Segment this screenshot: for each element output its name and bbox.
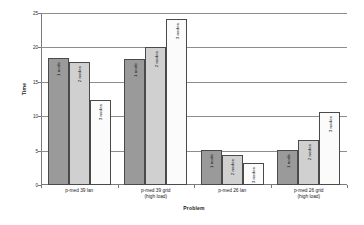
bar-label: 2 nodes: [153, 51, 158, 67]
bar-chart: Time 0510152025 1 node2 nodes3 nodes1 no…: [0, 0, 364, 225]
x-axis-category-label: p-med 26 grid(high load): [271, 188, 348, 201]
bar-label: 3 nodes: [327, 116, 332, 132]
x-axis-category-label: p-med 39 lan: [41, 188, 118, 201]
bar-group: 1 node2 nodes3 nodes: [271, 13, 348, 185]
bar: 3 nodes: [243, 163, 264, 185]
bar: 1 node: [48, 58, 69, 185]
bar-label: 1 node: [56, 62, 61, 76]
y-axis-tick-label: 20: [33, 45, 38, 50]
y-axis-tick-label: 10: [33, 114, 38, 119]
y-axis-tick-label: 5: [35, 148, 38, 153]
bar-groups: 1 node2 nodes3 nodes1 node2 nodes3 nodes…: [41, 13, 347, 185]
category-label-line1: p-med 26 lan: [218, 188, 246, 193]
bar: 1 node: [201, 150, 222, 185]
bar: 2 nodes: [69, 62, 90, 185]
y-axis-tick-label: 0: [35, 183, 38, 188]
x-axis-title: Problem: [41, 205, 347, 211]
bar-label: 1 node: [132, 63, 137, 77]
bar-label: 2 nodes: [77, 66, 82, 82]
category-label-line2: (high load): [271, 194, 348, 200]
bar: 1 node: [277, 150, 298, 185]
bar-group: 1 node2 nodes3 nodes: [194, 13, 271, 185]
bar-label: 3 nodes: [98, 104, 103, 120]
y-axis-tick-label: 25: [33, 11, 38, 16]
bar-label: 2 nodes: [306, 144, 311, 160]
plot-area: 0510152025 1 node2 nodes3 nodes1 node2 n…: [41, 13, 347, 185]
bar-group: 1 node2 nodes3 nodes: [118, 13, 195, 185]
bar: 2 nodes: [222, 155, 243, 185]
bar-group: 1 node2 nodes3 nodes: [41, 13, 118, 185]
x-axis-tick-mark: [347, 185, 348, 188]
bar: 2 nodes: [298, 140, 319, 185]
bar: 3 nodes: [319, 112, 340, 185]
bar-label: 1 node: [285, 154, 290, 168]
category-label-line1: p-med 39 lan: [65, 188, 93, 193]
bar: 3 nodes: [90, 100, 111, 185]
x-axis-category-label: p-med 26 lan: [194, 188, 271, 201]
bar-label: 1 node: [209, 154, 214, 168]
x-axis-category-labels: p-med 39 lanp-med 39 grid(high load)p-me…: [41, 188, 347, 201]
bar-label: 3 nodes: [174, 23, 179, 39]
bar-label: 2 nodes: [230, 159, 235, 175]
y-axis-tick-label: 15: [33, 79, 38, 84]
bar: 2 nodes: [145, 47, 166, 185]
bar-label: 3 nodes: [251, 167, 256, 183]
bar: 1 node: [124, 59, 145, 185]
y-axis-title: Time: [21, 69, 27, 109]
x-axis-category-label: p-med 39 grid(high load): [118, 188, 195, 201]
bar: 3 nodes: [166, 19, 187, 185]
category-label-line1: p-med 26 grid: [294, 188, 324, 193]
category-label-line1: p-med 39 grid: [141, 188, 171, 193]
category-label-line2: (high load): [118, 194, 195, 200]
